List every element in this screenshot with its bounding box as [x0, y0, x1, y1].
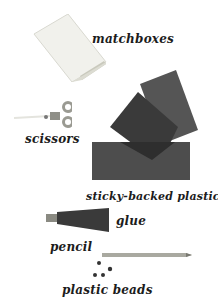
label-glue: glue [116, 214, 146, 228]
label-pencil: pencil [50, 240, 92, 254]
glue-image [45, 208, 111, 232]
label-matchboxes: matchboxes [92, 32, 174, 46]
label-sticky-backed-plastic: sticky-backed plastic [86, 190, 218, 203]
scissors-image [10, 100, 72, 132]
pencil-image [102, 243, 192, 249]
materials-illustration: matchboxes scissors sticky-backed plasti… [0, 0, 218, 297]
label-plastic-beads: plastic beads [62, 283, 153, 297]
sticky-backed-plastic-image [90, 62, 200, 182]
label-scissors: scissors [25, 132, 80, 146]
plastic-beads-image [90, 260, 120, 280]
